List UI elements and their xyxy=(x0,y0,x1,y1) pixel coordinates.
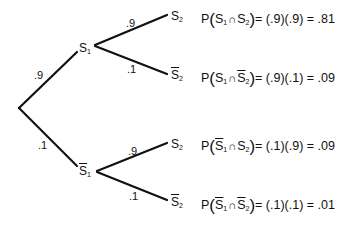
branch-root-to-s1 xyxy=(19,52,77,108)
equation-not-s1-and-not-s2: P(S1∩S2)= (.1)(.1) = .01 xyxy=(201,198,335,216)
probability-tree-lines xyxy=(0,0,345,225)
node-s1: S1 xyxy=(79,42,91,58)
node-s1-s2: S2 xyxy=(171,10,183,26)
equation-not-s1-and-s2: P(S1∩S2)= (.1)(.9) = .09 xyxy=(201,139,335,157)
equation-s1-and-not-s2: P(S1∩S2)= (.9)(.1) = .09 xyxy=(201,71,335,89)
prob-label-s1-not-s2: .1 xyxy=(127,64,136,75)
node-not-s1: S1 xyxy=(79,165,91,181)
prob-label-s1: .9 xyxy=(34,70,43,81)
node-not-s1-not-s2: S2 xyxy=(171,196,183,212)
branch-root-to-not-s1 xyxy=(19,108,77,166)
node-s1-not-s2: S2 xyxy=(171,69,183,85)
prob-label-not-s1: .1 xyxy=(38,140,47,151)
prob-label-not-s1-not-s2: .1 xyxy=(129,191,138,202)
node-not-s1-s2: S2 xyxy=(171,138,183,154)
prob-label-s1-s2: .9 xyxy=(126,18,135,29)
equation-s1-and-s2: P(S1∩S2)= (.9)(.9) = .81 xyxy=(201,12,335,30)
prob-label-not-s1-s2: .9 xyxy=(128,146,137,157)
